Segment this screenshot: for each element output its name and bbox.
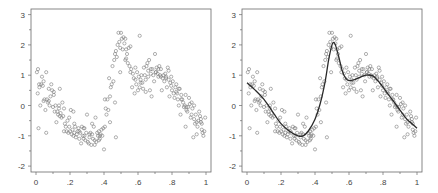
data-point (123, 42, 126, 45)
data-point (48, 104, 51, 107)
data-point (142, 87, 145, 90)
data-point (386, 83, 389, 86)
data-point (170, 84, 173, 87)
data-point (275, 125, 278, 128)
data-point (177, 104, 180, 107)
figure: -2-101230.2.4.6.81 -2-101230.2.4.6.81 (0, 0, 438, 193)
data-point (283, 110, 286, 113)
data-point (61, 101, 64, 104)
data-point (139, 78, 142, 81)
y-tick-label: 1 (232, 71, 237, 80)
data-point (170, 75, 173, 78)
data-point (173, 96, 176, 99)
data-point (116, 43, 119, 46)
scatter-points (246, 31, 418, 151)
data-point (405, 113, 408, 116)
data-point (126, 62, 129, 65)
data-point (108, 95, 111, 98)
data-point (359, 58, 362, 61)
data-point (364, 52, 367, 55)
data-point (108, 121, 111, 124)
data-point (121, 48, 124, 51)
data-point (44, 108, 47, 111)
right-panel: -2-101230.2.4.6.81 (229, 9, 422, 187)
data-point (193, 118, 196, 121)
data-point (256, 131, 259, 134)
x-tick-label: .6 (346, 178, 353, 187)
data-point (304, 143, 307, 146)
data-point (184, 93, 187, 96)
data-point (395, 125, 398, 128)
data-point (256, 71, 259, 74)
data-point (413, 134, 416, 137)
x-tick-label: 1 (204, 178, 209, 187)
data-point (325, 52, 328, 55)
data-point (93, 143, 96, 146)
data-point (36, 92, 39, 95)
data-point (74, 125, 77, 128)
data-point (64, 125, 67, 128)
data-point (182, 101, 185, 104)
data-point (187, 96, 190, 99)
data-point (144, 78, 147, 81)
data-point (143, 74, 146, 77)
plot-frame (31, 9, 211, 172)
y-tick-label: 0 (232, 102, 237, 111)
data-point (284, 122, 287, 125)
data-point (138, 34, 141, 37)
data-point (107, 108, 110, 111)
data-point (166, 66, 169, 69)
data-point (204, 116, 207, 119)
data-point (398, 96, 401, 99)
data-point (54, 104, 57, 107)
data-point (355, 90, 358, 93)
data-point (329, 40, 332, 43)
data-point (136, 89, 139, 92)
data-point (45, 71, 48, 74)
data-point (68, 125, 71, 128)
data-point (85, 131, 88, 134)
data-point (384, 96, 387, 99)
data-point (118, 40, 121, 43)
y-tick-label: -1 (229, 132, 237, 141)
data-point (47, 87, 50, 90)
data-point (131, 72, 134, 75)
data-point (77, 127, 80, 130)
data-point (274, 107, 277, 110)
data-point (282, 128, 285, 131)
data-point (279, 125, 282, 128)
data-point (248, 127, 251, 130)
data-point (153, 52, 156, 55)
data-point (379, 95, 382, 98)
data-point (289, 137, 292, 140)
data-point (180, 93, 183, 96)
x-tick-label: .6 (135, 178, 142, 187)
data-point (258, 87, 261, 90)
data-point (55, 121, 58, 124)
data-point (332, 48, 335, 51)
data-point (58, 87, 61, 90)
data-point (395, 93, 398, 96)
data-point (190, 113, 193, 116)
x-tick-label: .8 (380, 178, 387, 187)
data-point (92, 125, 95, 128)
data-point (327, 43, 330, 46)
data-point (376, 86, 379, 89)
data-point (255, 108, 258, 111)
data-point (175, 83, 178, 86)
data-point (80, 142, 83, 145)
data-point (170, 89, 173, 92)
data-point (38, 86, 41, 89)
data-point (305, 116, 308, 119)
data-point (382, 80, 385, 83)
x-tick-label: .2 (278, 178, 285, 187)
y-tick-label: 2 (21, 41, 26, 50)
data-point (302, 122, 305, 125)
data-point (165, 86, 168, 89)
data-point (374, 80, 377, 83)
data-point (136, 71, 139, 74)
data-point (148, 58, 151, 61)
data-point (391, 93, 394, 96)
data-point (179, 113, 182, 116)
x-tick-label: 0 (245, 178, 250, 187)
